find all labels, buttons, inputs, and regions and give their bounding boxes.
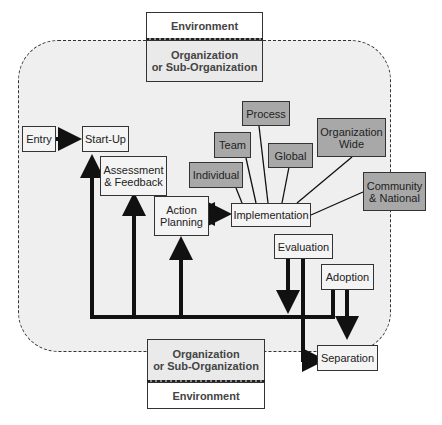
organization-top: Organization or Sub-Organization [146,40,263,82]
environment-top: Environment [146,12,263,39]
phase-evaluation: Evaluation [274,234,333,259]
level-global: Global [268,143,313,168]
phase-implementation: Implementation [231,203,311,227]
level-process: Process [242,101,290,126]
phase-adoption: Adoption [321,264,374,290]
phase-entry: Entry [22,126,56,152]
environment-bottom: Environment [147,382,265,409]
organization-bottom: Organization or Sub-Organization [147,339,265,381]
phase-separation: Separation [317,345,378,371]
phase-action-planning: Action Planning [154,196,209,236]
level-individual: Individual [189,162,243,188]
level-organization-wide: Organization Wide [317,118,386,157]
level-community-national: Community & National [363,172,426,211]
level-team: Team [214,132,251,158]
phase-startup: Start-Up [82,126,129,152]
phase-assessment-feedback: Assessment & Feedback [100,156,167,196]
